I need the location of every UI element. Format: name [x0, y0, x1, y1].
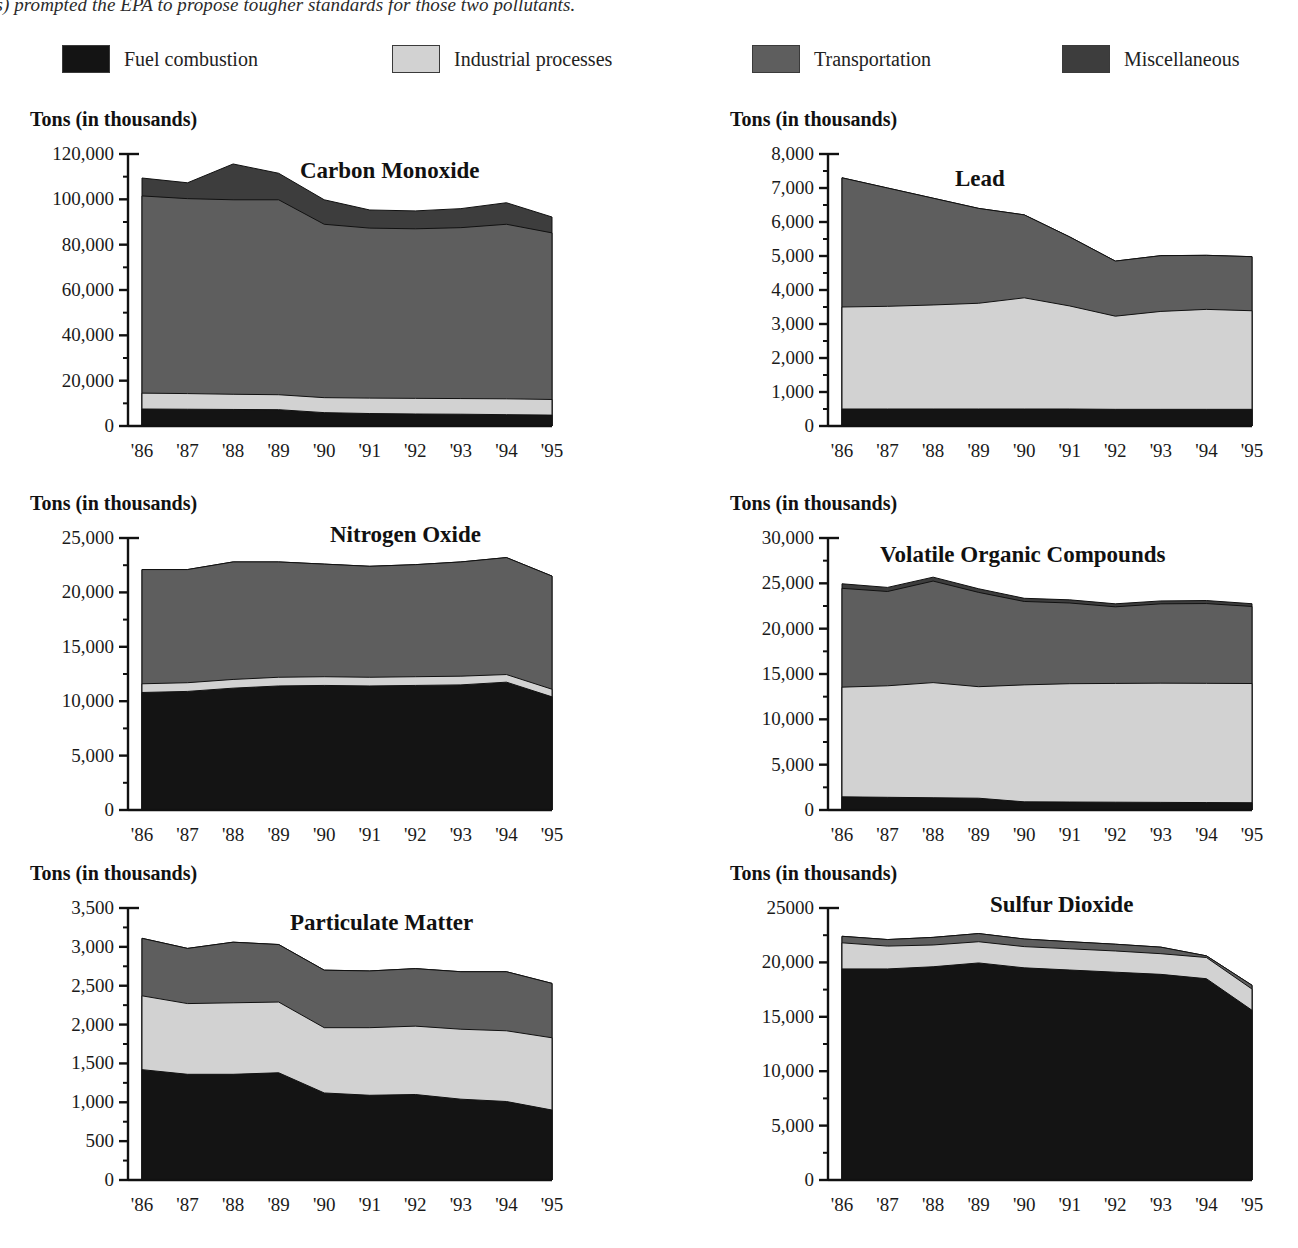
y-tick-label: 10,000	[0, 690, 114, 712]
area-carbon-monoxide-transportation	[142, 196, 552, 426]
y-tick-label: 15,000	[700, 663, 814, 685]
x-tick-label: '91	[1059, 440, 1081, 462]
x-tick-label: '89	[967, 824, 989, 846]
x-tick-label: '87	[876, 824, 898, 846]
area-voc-industrial-processes	[842, 683, 1252, 810]
x-tick-label: '92	[404, 440, 426, 462]
x-tick-label: '90	[1013, 440, 1035, 462]
caption-text: ompounds) prompted the EPA to propose to…	[0, 0, 1298, 16]
y-tick-label: 2,000	[0, 1014, 114, 1036]
y-tick-label: 20,000	[0, 581, 114, 603]
legend-item-transportation: Transportation	[752, 44, 931, 74]
x-tick-label: '93	[450, 824, 472, 846]
y-tick-label: 0	[700, 415, 814, 437]
x-tick-label: '88	[222, 440, 244, 462]
x-tick-label: '87	[176, 1194, 198, 1216]
x-tick-label: '87	[176, 440, 198, 462]
y-tick-label: 2,500	[0, 975, 114, 997]
x-tick-label: '91	[359, 440, 381, 462]
y-tick-label: 30,000	[700, 527, 814, 549]
y-axis-caption: Tons (in thousands)	[730, 108, 897, 131]
x-tick-label: '91	[359, 1194, 381, 1216]
legend-swatch-fuel-combustion	[62, 45, 110, 73]
y-tick-label: 5,000	[700, 1115, 814, 1137]
x-tick-label: '94	[495, 440, 517, 462]
x-tick-label: '95	[1241, 1194, 1263, 1216]
x-tick-label: '93	[1150, 1194, 1172, 1216]
y-tick-label: 10,000	[700, 708, 814, 730]
x-tick-label: '94	[1195, 1194, 1217, 1216]
x-tick-label: '92	[404, 824, 426, 846]
x-tick-label: '92	[404, 1194, 426, 1216]
plot-area-voc: 05,00010,00015,00020,00025,00030,000'86'…	[700, 526, 1298, 862]
legend-item-fuel-combustion: Fuel combustion	[62, 44, 258, 74]
x-tick-label: '87	[176, 824, 198, 846]
legend-swatch-miscellaneous	[1062, 45, 1110, 73]
x-tick-label: '89	[267, 824, 289, 846]
x-tick-label: '91	[1059, 824, 1081, 846]
y-tick-label: 20,000	[700, 951, 814, 973]
x-tick-label: '89	[967, 440, 989, 462]
x-tick-label: '95	[541, 1194, 563, 1216]
x-tick-label: '86	[831, 1194, 853, 1216]
x-tick-label: '95	[541, 824, 563, 846]
legend-label-industrial-processes: Industrial processes	[454, 48, 612, 71]
x-tick-label: '95	[1241, 440, 1263, 462]
x-tick-label: '87	[876, 1194, 898, 1216]
y-tick-label: 15,000	[700, 1006, 814, 1028]
x-tick-label: '90	[1013, 824, 1035, 846]
y-tick-label: 25,000	[0, 527, 114, 549]
y-tick-label: 15,000	[0, 636, 114, 658]
y-tick-label: 6,000	[700, 211, 814, 233]
y-tick-label: 1,000	[0, 1091, 114, 1113]
plot-area-sulfur-dioxide: 05,00010,00015,00020,00025000'86'87'88'8…	[700, 896, 1298, 1232]
x-tick-label: '94	[495, 824, 517, 846]
y-tick-label: 3,500	[0, 897, 114, 919]
legend-label-miscellaneous: Miscellaneous	[1124, 48, 1240, 71]
y-tick-label: 0	[0, 799, 114, 821]
chart-panel-voc: Tons (in thousands)Volatile Organic Comp…	[700, 492, 1298, 862]
y-tick-label: 0	[0, 415, 114, 437]
x-tick-label: '94	[1195, 440, 1217, 462]
x-tick-label: '86	[131, 440, 153, 462]
x-tick-label: '88	[222, 1194, 244, 1216]
y-tick-label: 5,000	[0, 745, 114, 767]
x-tick-label: '87	[876, 440, 898, 462]
x-tick-label: '91	[1059, 1194, 1081, 1216]
x-tick-label: '95	[1241, 824, 1263, 846]
area-nitrogen-oxide-fuel-combustion	[142, 682, 552, 810]
y-axis-caption: Tons (in thousands)	[30, 108, 197, 131]
area-lead-industrial-processes	[842, 298, 1252, 426]
legend-item-miscellaneous: Miscellaneous	[1062, 44, 1240, 74]
y-tick-label: 60,000	[0, 279, 114, 301]
y-tick-label: 10,000	[700, 1060, 814, 1082]
x-tick-label: '88	[922, 440, 944, 462]
y-tick-label: 25000	[700, 897, 814, 919]
y-tick-label: 7,000	[700, 177, 814, 199]
x-tick-label: '92	[1104, 824, 1126, 846]
y-axis-caption: Tons (in thousands)	[730, 862, 897, 885]
x-tick-label: '91	[359, 824, 381, 846]
x-tick-label: '94	[1195, 824, 1217, 846]
x-tick-label: '88	[922, 824, 944, 846]
chart-panel-lead: Tons (in thousands)Lead01,0002,0003,0004…	[700, 108, 1298, 478]
y-tick-label: 8,000	[700, 143, 814, 165]
x-tick-label: '89	[267, 440, 289, 462]
x-tick-label: '93	[450, 440, 472, 462]
area-lead-fuel-combustion	[842, 409, 1252, 426]
x-tick-label: '94	[495, 1194, 517, 1216]
y-tick-label: 25,000	[700, 572, 814, 594]
y-tick-label: 2,000	[700, 347, 814, 369]
y-tick-label: 5,000	[700, 754, 814, 776]
y-axis-caption: Tons (in thousands)	[30, 492, 197, 515]
plot-area-nitrogen-oxide: 05,00010,00015,00020,00025,000'86'87'88'…	[0, 526, 598, 862]
x-tick-label: '86	[831, 824, 853, 846]
y-tick-label: 3,000	[700, 313, 814, 335]
x-tick-label: '88	[222, 824, 244, 846]
legend-label-fuel-combustion: Fuel combustion	[124, 48, 258, 71]
y-tick-label: 0	[0, 1169, 114, 1191]
y-tick-label: 80,000	[0, 234, 114, 256]
x-tick-label: '93	[1150, 440, 1172, 462]
x-tick-label: '92	[1104, 1194, 1126, 1216]
x-tick-label: '92	[1104, 440, 1126, 462]
